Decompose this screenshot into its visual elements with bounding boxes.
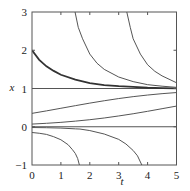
x-axis-label: t (120, 175, 124, 187)
solution-curves (32, 12, 177, 165)
y-tick-label: 0 (22, 121, 28, 133)
x-tick-label: 1 (58, 169, 64, 181)
x-tick-label: 4 (145, 169, 151, 181)
x-axis-ticks: 012345 (29, 12, 180, 181)
solution-curve (127, 12, 177, 83)
solution-curve (32, 132, 79, 165)
solution-curve (32, 106, 177, 124)
y-tick-label: 2 (22, 44, 28, 56)
y-tick-label: −1 (15, 159, 27, 171)
y-tick-label: 3 (22, 6, 28, 18)
x-tick-label: 2 (87, 169, 93, 181)
y-tick-label: 1 (22, 83, 28, 95)
y-axis-label: x (9, 81, 15, 93)
plot: 012345 −10123 t x (0, 0, 190, 191)
x-tick-label: 5 (174, 169, 180, 181)
x-tick-label: 0 (29, 169, 35, 181)
solution-curve (75, 12, 176, 87)
solution-curve (32, 128, 142, 165)
